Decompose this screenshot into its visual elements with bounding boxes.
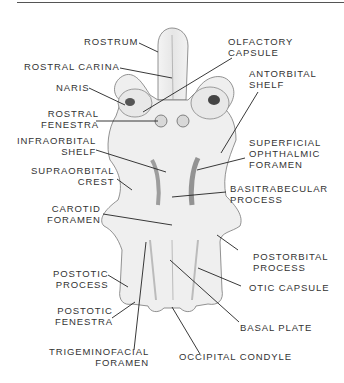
label-carotid-foramen: CAROTIDFORAMEN — [47, 203, 101, 225]
label-otic-capsule: OTIC CAPSULE — [249, 282, 329, 293]
label-naris: NARIS — [56, 82, 90, 93]
label-postotic-process: POSTOTICPROCESS — [53, 268, 109, 290]
label-postorbital-process: POSTORBITALPROCESS — [253, 251, 329, 273]
label-infraorbital-shelf: INFRAORBITALSHELF — [17, 135, 96, 157]
label-rostrum: ROSTRUM — [84, 36, 138, 47]
label-superficial-ophthalmic-foramen: SUPERFICIALOPHTHALMICFORAMEN — [249, 137, 321, 170]
label-basal-plate: BASAL PLATE — [240, 322, 312, 333]
label-basitrabecular-process: BASITRABECULARPROCESS — [230, 183, 328, 205]
label-trigeminofacial-foramen: TRIGEMINOFACIALFORAMEN — [49, 346, 149, 368]
label-olfactory-capsule: OLFACTORYCAPSULE — [228, 36, 293, 58]
label-occipital-condyle: OCCIPITAL CONDYLE — [179, 351, 292, 362]
label-antorbital-shelf: ANTORBITALSHELF — [249, 68, 317, 90]
label-rostral-fenestra: ROSTRALFENESTRA — [41, 108, 99, 130]
label-postotic-fenestra: POSTOTICFENESTRA — [55, 305, 113, 327]
label-supraorbital-crest: SUPRAORBITALCREST — [31, 165, 114, 187]
label-rostral-carina: ROSTRAL CARINA — [24, 61, 120, 72]
